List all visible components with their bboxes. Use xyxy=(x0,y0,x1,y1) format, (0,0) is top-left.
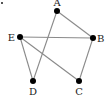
graph-diagram: A B C D E xyxy=(0,0,107,104)
nodes-group xyxy=(17,8,96,84)
node-label-c: C xyxy=(75,86,83,97)
node-d xyxy=(30,78,36,84)
edge-b-c xyxy=(79,38,93,81)
node-label-a: A xyxy=(52,0,61,8)
node-b xyxy=(90,35,96,41)
node-label-b: B xyxy=(97,33,104,44)
edge-e-b xyxy=(20,37,93,38)
node-label-e: E xyxy=(8,32,15,43)
node-label-d: D xyxy=(29,86,37,97)
edge-a-d xyxy=(33,11,57,81)
node-a xyxy=(54,8,60,14)
edge-e-d xyxy=(20,37,33,81)
node-c xyxy=(76,78,82,84)
edge-e-c xyxy=(20,37,79,81)
edges-group xyxy=(20,11,93,81)
node-e xyxy=(17,34,23,40)
corner-mark xyxy=(1,2,3,4)
edge-a-b xyxy=(57,11,93,38)
